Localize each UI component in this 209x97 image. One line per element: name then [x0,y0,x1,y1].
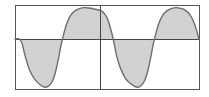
chart-canvas [0,0,209,97]
waveform-chart [0,0,209,97]
